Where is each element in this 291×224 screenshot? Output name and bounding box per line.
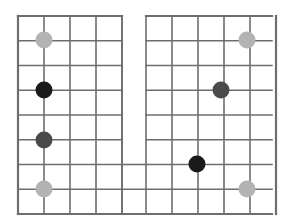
stone-disc[interactable] [36,132,53,149]
screenshot-canvas [0,0,291,224]
stone-disc[interactable] [213,82,230,99]
stone-disc[interactable] [239,181,256,198]
light-stone-top-left[interactable] [36,32,53,49]
stone-disc[interactable] [239,32,256,49]
dark-stone-bottom-center[interactable] [189,156,206,173]
notched-grid-board[interactable] [0,0,291,224]
stone-disc[interactable] [36,82,53,99]
mid-stone-lower-left[interactable] [36,132,53,149]
light-stone-bottom-left[interactable] [36,181,53,198]
stone-disc[interactable] [36,32,53,49]
stone-disc[interactable] [189,156,206,173]
grid-svg [0,0,291,224]
stone-disc[interactable] [36,181,53,198]
dark-stone-upper-left[interactable] [36,82,53,99]
mid-stone-upper-right[interactable] [213,82,230,99]
light-stone-top-right[interactable] [239,32,256,49]
light-stone-bottom-right[interactable] [239,181,256,198]
